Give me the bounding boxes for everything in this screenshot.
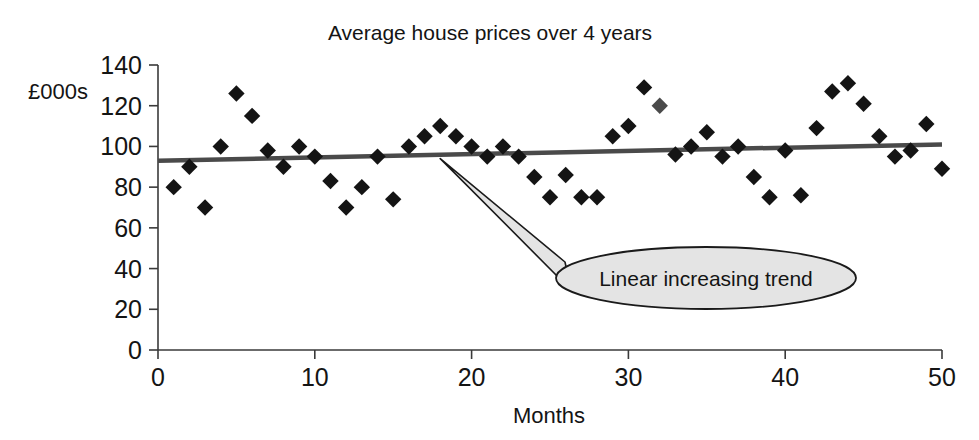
data-point-marker: [291, 138, 307, 154]
data-point-marker: [824, 83, 840, 99]
data-point-marker: [526, 169, 542, 185]
data-point-marker: [840, 75, 856, 91]
data-point-marker: [385, 191, 401, 207]
data-point-marker: [275, 159, 291, 175]
callout-label: Linear increasing trend: [599, 267, 813, 290]
data-point-marker: [746, 169, 762, 185]
data-point-marker: [307, 148, 323, 164]
y-tick-label: 80: [114, 173, 142, 201]
x-tick-label: 20: [458, 363, 486, 391]
data-point-marker: [197, 199, 213, 215]
data-point-marker: [699, 124, 715, 140]
x-tick-label: 10: [301, 363, 329, 391]
chart-container: Average house prices over 4 years £000s …: [0, 0, 979, 440]
data-point-marker: [636, 79, 652, 95]
data-point-marker: [652, 98, 668, 114]
data-point-marker: [808, 120, 824, 136]
x-tick-label: 30: [614, 363, 642, 391]
x-tick-label: 0: [151, 363, 165, 391]
y-axis: 020406080100120140: [100, 51, 158, 364]
data-point-marker: [793, 187, 809, 203]
data-point-marker: [448, 128, 464, 144]
data-point-marker: [542, 189, 558, 205]
y-tick-label: 140: [100, 51, 142, 79]
data-point-marker: [871, 128, 887, 144]
y-tick-label: 0: [128, 336, 142, 364]
y-axis-label: £000s: [28, 79, 88, 104]
y-tick-label: 100: [100, 132, 142, 160]
y-tick-label: 20: [114, 295, 142, 323]
y-tick-label: 120: [100, 92, 142, 120]
x-axis: 01020304050: [151, 350, 956, 391]
data-point-marker: [165, 179, 181, 195]
scatter-chart: Average house prices over 4 years £000s …: [0, 0, 979, 440]
callout-pointer: [440, 159, 571, 290]
data-point-marker: [777, 142, 793, 158]
data-point-marker: [855, 95, 871, 111]
callout-annotation[interactable]: Linear increasing trend: [440, 159, 856, 309]
data-point-marker: [322, 173, 338, 189]
data-point-marker: [369, 148, 385, 164]
data-point-marker: [244, 108, 260, 124]
data-point-marker: [761, 189, 777, 205]
data-point-marker: [934, 161, 950, 177]
data-point-marker: [605, 128, 621, 144]
data-point-marker: [416, 128, 432, 144]
data-point-marker: [213, 138, 229, 154]
data-point-marker: [557, 167, 573, 183]
data-point-marker: [620, 118, 636, 134]
x-tick-label: 50: [928, 363, 956, 391]
y-tick-label: 40: [114, 255, 142, 283]
data-point-marker: [573, 189, 589, 205]
data-point-marker: [479, 148, 495, 164]
data-point-marker: [354, 179, 370, 195]
x-tick-label: 40: [771, 363, 799, 391]
data-point-marker: [683, 138, 699, 154]
data-point-marker: [918, 116, 934, 132]
chart-title: Average house prices over 4 years: [328, 21, 652, 44]
data-point-marker: [887, 148, 903, 164]
data-point-marker: [228, 85, 244, 101]
data-point-marker: [589, 189, 605, 205]
y-tick-label: 60: [114, 214, 142, 242]
data-point-marker: [338, 199, 354, 215]
data-point-marker: [432, 118, 448, 134]
trend-line: [158, 144, 942, 160]
data-point-marker: [401, 138, 417, 154]
data-point-marker: [730, 138, 746, 154]
x-axis-label: Months: [513, 403, 585, 428]
trend-line-path: [158, 144, 942, 160]
